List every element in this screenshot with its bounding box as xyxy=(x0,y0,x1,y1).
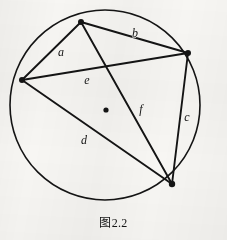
center-group xyxy=(103,107,108,112)
edge-label-a: a xyxy=(58,46,64,58)
figure-container: abcdef 图2.2 xyxy=(0,0,227,240)
edge-label-d: d xyxy=(81,134,87,146)
bottom-right-vertex xyxy=(169,181,175,187)
geometry-diagram xyxy=(0,0,227,240)
chord-group xyxy=(22,22,188,184)
vertex-group xyxy=(19,19,191,187)
edge-label-b: b xyxy=(132,27,138,39)
right-vertex xyxy=(185,50,191,56)
edge-label-c: c xyxy=(184,111,189,123)
top-vertex xyxy=(78,19,84,25)
side-d xyxy=(22,80,172,184)
circle-center-point xyxy=(103,107,108,112)
edge-label-e: e xyxy=(84,74,89,86)
diagonal-f xyxy=(81,22,172,184)
left-vertex xyxy=(19,77,25,83)
circumscribed-circle xyxy=(10,10,200,200)
figure-caption: 图2.2 xyxy=(0,213,227,231)
circle-group xyxy=(10,10,200,200)
edge-label-f: f xyxy=(139,103,142,115)
